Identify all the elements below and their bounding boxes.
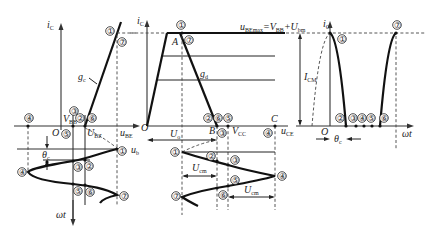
mid-ic-label: iC: [137, 15, 144, 27]
mid-ucm2-arrow-l-icon: [228, 195, 234, 199]
mid-ubemax-label: uBEmax=VBB+Ubm: [240, 21, 306, 33]
right-icm-arrow-down-icon: [298, 120, 302, 126]
mid-ucm1-arrow-l-icon: [182, 174, 188, 178]
mid-uo-arrow-left-icon: [147, 138, 153, 142]
left-point-6-top: ⑥: [88, 114, 97, 123]
svg-text:②: ②: [205, 114, 212, 123]
right-point-6: ⑥: [380, 114, 389, 123]
svg-text:⑥: ⑥: [220, 191, 227, 200]
svg-text:⑤: ⑤: [368, 114, 375, 123]
svg-text:⑥: ⑥: [381, 114, 388, 123]
panel-right-collector-current-pulse: iC ωt O ICM θc ① ⑦ ②: [296, 18, 414, 150]
svg-text:⑦: ⑦: [186, 36, 193, 45]
svg-text:⑦: ⑦: [121, 192, 128, 201]
svg-text:②: ②: [208, 152, 215, 161]
mid-ucm1-arrow-r-icon: [211, 174, 217, 178]
left-point-7: ⑦: [118, 38, 127, 47]
svg-text:④: ④: [279, 172, 286, 181]
right-point-4: ④: [358, 114, 367, 123]
mid-ic-arrow-icon: [145, 20, 150, 27]
svg-text:②: ②: [337, 114, 344, 123]
svg-text:⑥: ⑥: [87, 188, 94, 197]
mid-point-b: B: [209, 125, 215, 136]
svg-text:①: ①: [107, 27, 114, 36]
left-point-2-top: ②: [76, 114, 85, 123]
svg-text:①: ①: [178, 21, 185, 30]
panel-left-transfer-characteristic: iC uBE O gc ωt ub θc: [14, 19, 140, 226]
svg-text:③: ③: [232, 156, 239, 165]
svg-text:③: ③: [75, 163, 82, 172]
left-point-7-bottom: ⑦: [120, 192, 129, 201]
svg-text:③: ③: [350, 114, 357, 123]
mid-point-4-axis: ④: [264, 129, 273, 138]
mid-uo-label: Uo: [170, 128, 180, 140]
mid-gd-label: gd: [200, 68, 208, 80]
svg-text:④: ④: [26, 114, 33, 123]
left-ube-label: uBE: [120, 127, 133, 139]
mid-point-a: A: [171, 36, 179, 47]
right-point-1: ①: [338, 35, 347, 44]
left-point-4-bottom: ④: [18, 168, 27, 177]
svg-text:④: ④: [19, 168, 26, 177]
mid-point-3-wave: ③: [231, 156, 240, 165]
svg-text:④: ④: [359, 114, 366, 123]
mid-point-5-wave: ⑤: [231, 176, 240, 185]
mid-point-5-axis: ⑤: [224, 114, 233, 123]
svg-text:①: ①: [119, 147, 126, 156]
left-point-6-bottom: ⑥: [86, 188, 95, 197]
right-point-3: ③: [349, 114, 358, 123]
mid-point-1-top: ①: [177, 21, 186, 30]
mid-point-4-wave: ④: [278, 172, 287, 181]
left-point-2-bottom: ②: [85, 162, 94, 171]
svg-text:⑤: ⑤: [225, 114, 232, 123]
left-point-5-bottom: ⑤: [74, 187, 83, 196]
mid-point-7-wave: ⑦: [172, 192, 181, 201]
mid-point-6-wave: ⑥: [219, 191, 228, 200]
right-point-7: ⑦: [393, 21, 402, 30]
mid-point-2-wave: ②: [207, 152, 216, 161]
left-origin-label: O: [52, 127, 59, 138]
right-time-label: ωt: [402, 128, 412, 139]
mid-vcc-label: VCC: [232, 125, 246, 137]
left-time-arrow-icon: [71, 219, 76, 226]
svg-text:⑦: ⑦: [394, 21, 401, 30]
mid-ucm-label-1: Ucm: [192, 162, 207, 174]
right-point-5: ⑤: [367, 114, 376, 123]
right-ic-label: iC: [323, 18, 330, 30]
right-theta-label: θc: [334, 133, 342, 145]
right-theta-arrow-r-icon: [346, 137, 352, 141]
left-gc-line: [85, 22, 121, 126]
right-icm-arrow-up-icon: [298, 33, 302, 39]
left-ub-label: ub: [131, 144, 139, 156]
class-c-amplifier-waveform-diagram: iC uBE O gc ωt ub θc: [0, 0, 426, 233]
mid-point-3-axis: ③: [218, 129, 227, 138]
svg-text:⑥: ⑥: [215, 114, 222, 123]
right-pulse-1: [330, 33, 346, 126]
mid-point-6-axis: ⑥: [214, 114, 223, 123]
svg-text:①: ①: [172, 148, 179, 157]
left-point-3-bottom: ③: [74, 163, 83, 172]
right-pulse-2: [380, 33, 396, 126]
left-point-1-bottom: ①: [118, 147, 127, 156]
left-ube-axis-arrow-icon: [133, 124, 140, 129]
left-ic-axis-arrow-icon: [59, 23, 64, 30]
left-ubz-label: UBZ: [87, 127, 102, 139]
svg-text:③: ③: [219, 129, 226, 138]
right-theta-arrow-l-icon: [324, 137, 330, 141]
mid-point-1-wave: ①: [171, 148, 180, 157]
mid-ucm2-arrow-r-icon: [269, 195, 275, 199]
svg-text:⑤: ⑤: [75, 187, 82, 196]
left-gc-leader: [89, 78, 97, 84]
svg-text:⑦: ⑦: [173, 192, 180, 201]
svg-text:②: ②: [86, 162, 93, 171]
svg-text:⑦: ⑦: [119, 38, 126, 47]
mid-output-sine: [182, 152, 275, 206]
svg-text:⑤: ⑤: [63, 130, 70, 139]
left-point-1: ①: [106, 27, 115, 36]
mid-ucm-label-2: Ucm: [244, 184, 259, 196]
mid-dashed-curve: [182, 140, 217, 152]
right-origin-label: O: [321, 126, 328, 137]
mid-uce-label: uCE: [281, 125, 294, 137]
left-ic-label: iC: [47, 19, 54, 31]
mid-point-c: C: [271, 113, 278, 124]
